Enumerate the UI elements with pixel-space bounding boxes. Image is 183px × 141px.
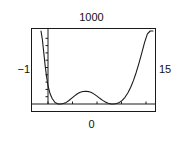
plot-label-bottom: 0	[0, 119, 183, 130]
plot-label-top: 1000	[0, 12, 183, 23]
plot-label-left: −1	[8, 64, 30, 75]
data-curve	[41, 31, 153, 104]
plot-canvas	[32, 29, 155, 111]
plot-label-right: 15	[159, 64, 171, 75]
axis-group	[32, 29, 155, 104]
plot-figure: 1000 −1 15 0	[0, 0, 183, 141]
plot-frame	[31, 28, 156, 112]
